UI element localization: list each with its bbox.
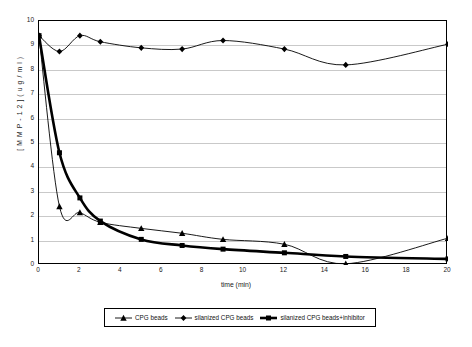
x-tick-label: 2: [66, 266, 92, 273]
diamond-marker-icon: [57, 48, 63, 54]
diamond-marker-icon: [445, 41, 448, 47]
x-tick-label: 12: [270, 266, 296, 273]
diamond-marker-icon: [220, 37, 226, 43]
legend-entry-3[interactable]: silanized CPG beads+inhibitor: [260, 313, 365, 323]
square-marker-icon: [446, 256, 449, 261]
x-tick-label: 14: [311, 266, 337, 273]
x-tick-label: 8: [189, 266, 215, 273]
diamond-marker-icon: [179, 46, 185, 52]
legend-label: silanized CPG beads: [195, 314, 254, 321]
series-line: [39, 36, 448, 259]
y-tick-label: 1: [4, 236, 34, 243]
square-marker-icon: [260, 313, 277, 323]
square-marker-icon: [343, 254, 348, 259]
chart-figure: 012345678910 02468101214161820 [ M M P -…: [0, 0, 472, 347]
diamond-marker-icon: [343, 62, 349, 68]
square-marker-icon: [77, 195, 82, 200]
legend-entry-2[interactable]: silanized CPG beads: [175, 313, 254, 323]
chart-series-svg: [39, 21, 448, 265]
square-marker-icon: [98, 219, 103, 224]
square-marker-icon: [139, 237, 144, 242]
x-axis-ticks: 02468101214161820: [0, 266, 472, 280]
x-tick-label: 16: [352, 266, 378, 273]
series-3: [39, 33, 448, 261]
x-tick-label: 10: [230, 266, 256, 273]
x-tick-label: 18: [393, 266, 419, 273]
y-tick-label: 3: [4, 187, 34, 194]
y-axis-label: [ M M P - 1 2 ] ( u g / m l ): [16, 39, 23, 169]
x-axis-label: time (min): [0, 281, 472, 288]
x-tick-label: 6: [148, 266, 174, 273]
y-tick-label: 2: [4, 211, 34, 218]
diamond-marker-icon: [77, 33, 83, 39]
square-marker-icon: [282, 250, 287, 255]
diamond-marker-icon: [180, 314, 186, 320]
triangle-marker-icon: [343, 261, 349, 265]
triangle-marker-icon: [56, 203, 62, 209]
triangle-marker-icon: [445, 235, 448, 241]
series-2: [39, 33, 448, 68]
legend-label: CPG beads: [135, 314, 168, 321]
x-tick-label: 4: [107, 266, 133, 273]
x-tick-label: 20: [434, 266, 460, 273]
x-tick-label: 0: [25, 266, 51, 273]
square-marker-icon: [221, 247, 226, 252]
triangle-marker-icon: [115, 313, 132, 323]
square-marker-icon: [57, 150, 62, 155]
diamond-marker-icon: [138, 45, 144, 51]
legend-entry-1[interactable]: CPG beads: [115, 313, 168, 323]
diamond-marker-icon: [175, 313, 192, 323]
diamond-marker-icon: [97, 39, 103, 45]
chart-legend: CPG beadssilanized CPG beadssilanized CP…: [104, 308, 376, 327]
series-line: [39, 36, 448, 264]
square-marker-icon: [266, 315, 271, 320]
series-1: [39, 32, 448, 265]
plot-area: [38, 20, 447, 264]
square-marker-icon: [39, 33, 42, 38]
square-marker-icon: [180, 243, 185, 248]
diamond-marker-icon: [282, 46, 288, 52]
y-tick-label: 10: [4, 16, 34, 23]
legend-label: silanized CPG beads+inhibitor: [280, 314, 365, 321]
